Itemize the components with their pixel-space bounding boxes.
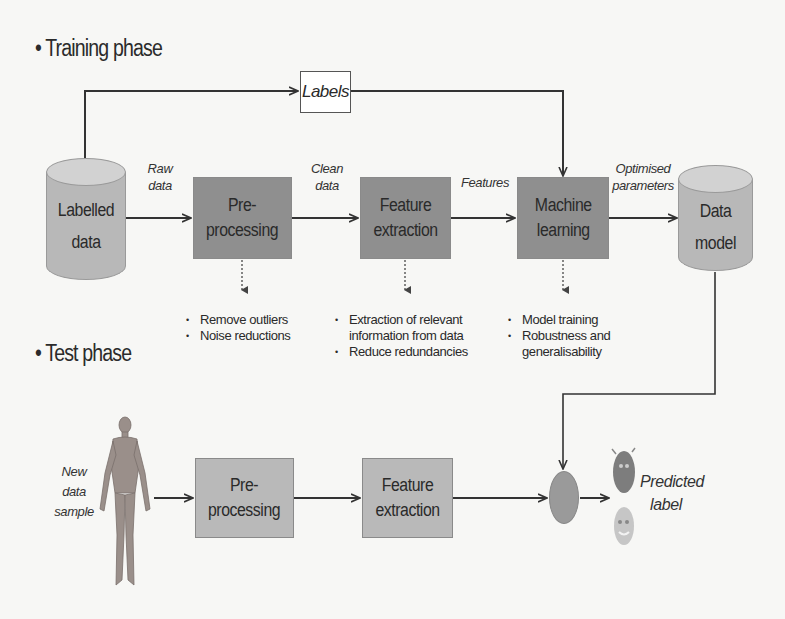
optimised-parameters-label: Optimised parameters <box>608 160 678 194</box>
note-reduce-redundancies: Reduce redundancies <box>335 344 468 360</box>
test-preprocessing-line2: processing <box>208 498 280 523</box>
training-preprocessing-box: Pre- processing <box>193 177 292 259</box>
training-feature-extraction-box: Feature extraction <box>360 177 451 259</box>
new-sample-line3: sample <box>52 502 96 522</box>
note-extraction-line2: information from data <box>349 328 468 344</box>
note-model-training: Model training <box>508 312 610 328</box>
machine-learning-line2: learning <box>535 218 592 243</box>
features-label: Features <box>455 174 515 191</box>
classifier-node <box>549 471 579 524</box>
clean-data-line2: data <box>305 177 349 194</box>
machine-learning-line1: Machine <box>535 193 592 218</box>
machine-learning-notes: Model training Robustness and generalisa… <box>508 312 610 360</box>
new-sample-line1: New <box>52 462 96 482</box>
new-sample-line2: data <box>52 482 96 502</box>
machine-learning-box: Machine learning <box>517 177 609 259</box>
test-feature-line2: extraction <box>375 498 439 523</box>
data-model-line2: model <box>683 227 749 259</box>
optimised-line2: parameters <box>608 177 678 194</box>
raw-data-label: Raw data <box>140 160 180 194</box>
predicted-line2: label <box>640 493 710 516</box>
training-preprocessing-line1: Pre- <box>206 193 278 218</box>
clean-data-line1: Clean <box>305 160 349 177</box>
predicted-label-text: Predicted label <box>640 470 710 516</box>
note-extraction-relevant: Extraction of relevant information from … <box>335 312 468 344</box>
dark-cell-icon <box>612 448 635 493</box>
labelled-data-line2: data <box>51 226 121 258</box>
predicted-class-icons <box>610 446 640 550</box>
test-feature-extraction-box: Feature extraction <box>362 458 453 538</box>
test-phase-title: • Test phase <box>35 340 131 367</box>
preprocessing-notes: Remove outliers Noise reductions <box>186 312 290 344</box>
note-noise-reductions: Noise reductions <box>186 328 290 344</box>
labels-box: Labels <box>300 71 351 113</box>
note-robustness-line1: Robustness and <box>522 328 610 344</box>
new-data-sample-label: New data sample <box>52 462 96 522</box>
human-body-icon <box>95 415 155 591</box>
data-model-line1: Data <box>683 195 749 227</box>
training-phase-title: • Training phase <box>35 35 162 62</box>
predicted-line1: Predicted <box>640 470 710 493</box>
data-model-cylinder: Data model <box>678 165 753 271</box>
light-cell-icon <box>614 507 634 545</box>
training-preprocessing-line2: processing <box>206 218 278 243</box>
feature-extraction-notes: Extraction of relevant information from … <box>335 312 468 360</box>
test-preprocessing-box: Pre- processing <box>195 458 294 538</box>
test-preprocessing-line1: Pre- <box>208 473 280 498</box>
note-robustness-line2: generalisability <box>522 344 610 360</box>
labelled-data-cylinder: Labelled data <box>46 158 126 280</box>
note-extraction-line1: Extraction of relevant <box>349 312 468 328</box>
optimised-line1: Optimised <box>608 160 678 177</box>
note-robustness: Robustness and generalisability <box>508 328 610 360</box>
test-feature-line1: Feature <box>375 473 439 498</box>
raw-data-line1: Raw <box>140 160 180 177</box>
training-feature-line1: Feature <box>373 193 437 218</box>
note-remove-outliers: Remove outliers <box>186 312 290 328</box>
clean-data-label: Clean data <box>305 160 349 194</box>
raw-data-line2: data <box>140 177 180 194</box>
labelled-data-line1: Labelled <box>51 194 121 226</box>
training-feature-line2: extraction <box>373 218 437 243</box>
